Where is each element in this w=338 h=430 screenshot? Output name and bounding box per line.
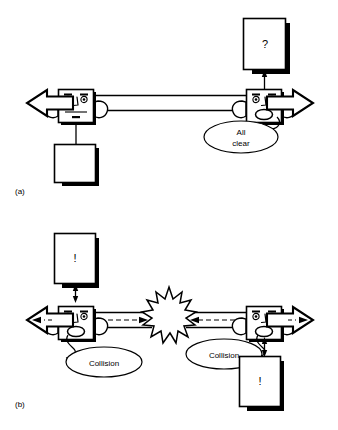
panel-b-left-box-glyph: ! bbox=[73, 252, 76, 264]
panel-a-left-box-frame bbox=[55, 145, 96, 183]
panel-b-right-box: ! bbox=[240, 357, 285, 412]
panel-b-right-bubble-label: Collision bbox=[209, 351, 239, 360]
robot-collision-figure: ? bbox=[0, 0, 338, 430]
panel-a-bubble-line1: All bbox=[237, 128, 246, 137]
figure-canvas: ? bbox=[0, 0, 338, 430]
panel-b-label: (b) bbox=[15, 400, 25, 409]
panel-b-right-box-glyph: ! bbox=[258, 375, 261, 387]
panel-a-right-box-glyph: ? bbox=[262, 38, 268, 50]
panel-a-bubble-line2: clear bbox=[232, 139, 250, 148]
panel-b-left-bubble-label: Collision bbox=[89, 359, 119, 368]
panel-a-right-box: ? bbox=[244, 19, 291, 75]
panel-a-label: (a) bbox=[15, 187, 25, 196]
panel-a-bubble-shape bbox=[204, 121, 278, 153]
panel-b-left-box: ! bbox=[55, 234, 100, 289]
